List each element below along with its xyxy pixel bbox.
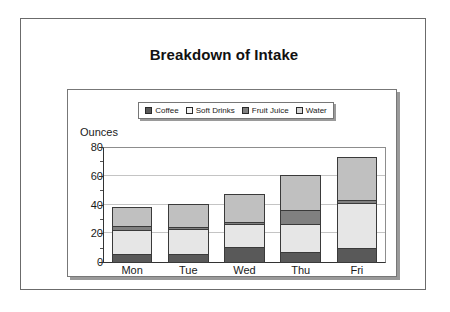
legend-label-soft-drinks: Soft Drinks: [196, 106, 235, 115]
chart-object[interactable]: Coffee Soft Drinks Fruit Juice Water Oun…: [67, 89, 397, 277]
legend-label-fruit-juice: Fruit Juice: [252, 106, 289, 115]
page-title: Breakdown of Intake: [21, 46, 427, 63]
bar-segment-soft-drinks[interactable]: [338, 203, 376, 248]
x-tick-label-mon: Mon: [104, 264, 160, 277]
x-tick-label-fri: Fri: [329, 264, 385, 277]
legend-swatch-coffee: [145, 107, 152, 114]
slide-frame: Breakdown of Intake Coffee Soft Drinks F…: [20, 18, 426, 290]
legend-item-coffee[interactable]: Coffee: [145, 106, 178, 115]
bar-column-mon[interactable]: [112, 148, 152, 263]
bar-column-thu[interactable]: [280, 148, 320, 263]
legend-label-water: Water: [306, 106, 327, 115]
x-axis: MonTueWedThuFri: [104, 264, 385, 278]
legend-swatch-water: [296, 107, 303, 114]
legend-label-coffee: Coffee: [155, 106, 178, 115]
x-tick-label-wed: Wed: [216, 264, 272, 277]
bar-stack: [112, 207, 152, 263]
legend-item-fruit-juice[interactable]: Fruit Juice: [242, 106, 289, 115]
bar-segment-water[interactable]: [169, 205, 207, 227]
x-tick-label-tue: Tue: [160, 264, 216, 277]
legend-swatch-fruit-juice: [242, 107, 249, 114]
x-tick-label-thu: Thu: [273, 264, 329, 277]
bar-segment-water[interactable]: [225, 195, 263, 222]
bar-segment-coffee[interactable]: [338, 248, 376, 262]
bar-segment-soft-drinks[interactable]: [225, 224, 263, 246]
bar-segment-soft-drinks[interactable]: [113, 230, 151, 254]
bar-segment-coffee[interactable]: [225, 247, 263, 262]
bar-column-wed[interactable]: [224, 148, 264, 263]
y-axis: 020406080: [68, 147, 103, 263]
bar-segment-coffee[interactable]: [169, 254, 207, 262]
bar-segment-water[interactable]: [281, 176, 319, 210]
bar-stack: [168, 204, 208, 263]
bar-segment-water[interactable]: [338, 158, 376, 200]
bar-column-fri[interactable]: [337, 148, 377, 263]
bar-segment-soft-drinks[interactable]: [169, 229, 207, 254]
bar-segment-soft-drinks[interactable]: [281, 224, 319, 252]
y-axis-title: Ounces: [80, 126, 118, 138]
bar-segment-coffee[interactable]: [113, 254, 151, 262]
bar-column-tue[interactable]: [168, 148, 208, 263]
bar-segment-fruit-juice[interactable]: [281, 210, 319, 224]
bar-stack: [224, 194, 264, 263]
legend-item-soft-drinks[interactable]: Soft Drinks: [186, 106, 235, 115]
bar-segment-coffee[interactable]: [281, 252, 319, 262]
chart-legend: Coffee Soft Drinks Fruit Juice Water: [138, 102, 334, 119]
bar-segment-water[interactable]: [113, 208, 151, 226]
legend-item-water[interactable]: Water: [296, 106, 327, 115]
bar-series-group: [104, 148, 385, 263]
bar-stack: [337, 157, 377, 263]
legend-swatch-soft-drinks: [186, 107, 193, 114]
bar-stack: [280, 175, 320, 263]
